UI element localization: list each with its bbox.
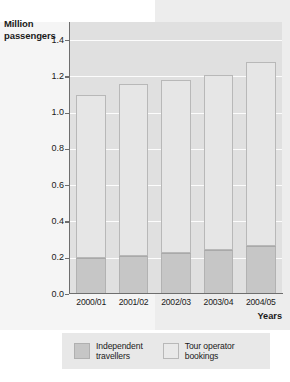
y-axis-tick-mark [65,294,69,295]
y-axis-tick-mark [65,258,69,259]
bar-group [119,22,149,294]
stacked-bar-chart: Million passengers 0.00.20.40.60.81.01.2… [0,0,290,382]
legend-swatch-independent [74,343,90,359]
x-axis-tick-label: 2000/01 [69,297,113,307]
y-axis-tick-mark [65,185,69,186]
x-axis-tick-label: 2001/02 [112,297,156,307]
y-axis-tick-label: 1.2 [26,71,64,81]
x-axis-tick-label: 2002/03 [154,297,198,307]
bar-segment-tour-operator [204,75,234,250]
bar-segment-independent [76,258,106,294]
y-axis-tick-mark [65,113,69,114]
bar-segment-tour-operator [119,84,149,256]
y-axis-tick-label: 0.2 [26,252,64,262]
y-axis-title-line1: Million [4,18,66,30]
bar-segment-tour-operator [76,95,106,258]
bar-segment-tour-operator [246,62,276,246]
legend-label-independent-line2: travellers [96,351,143,362]
y-axis-tick-mark [65,40,69,41]
bar-group [246,22,276,294]
bar-group [161,22,191,294]
plot-area [70,22,282,294]
y-axis-tick-mark [65,221,69,222]
plot-inner [70,22,282,294]
x-axis-title: Years [257,311,282,321]
bar-segment-independent [161,253,191,294]
chart-legend: Independent travellers Tour operator boo… [62,333,270,369]
y-axis-tick-label: 1.0 [26,107,64,117]
bar-segment-tour-operator [161,80,191,253]
y-axis-tick-label: 0.4 [26,216,64,226]
bar-segment-independent [246,246,276,294]
x-axis-tick-label: 2004/05 [239,297,283,307]
x-axis-tick-label: 2003/04 [196,297,240,307]
legend-item-independent: Independent travellers [74,341,143,362]
legend-label-tour-operator-line2: bookings [185,351,235,362]
bar-segment-independent [119,256,149,294]
y-axis-line [69,22,70,294]
y-axis-tick-label: 0.8 [26,143,64,153]
legend-swatch-tour-operator [163,343,179,359]
legend-label-tour-operator-line1: Tour operator [185,341,235,352]
x-axis-line [69,293,283,294]
bar-group [204,22,234,294]
bar-group [76,22,106,294]
y-axis-tick-mark [65,76,69,77]
y-axis-tick-label: 0.6 [26,180,64,190]
y-axis-tick-label: 1.4 [26,35,64,45]
legend-label-tour-operator: Tour operator bookings [185,341,235,362]
legend-item-tour-operator: Tour operator bookings [163,341,235,362]
y-axis-tick-mark [65,149,69,150]
legend-label-independent-line1: Independent [96,341,143,352]
legend-label-independent: Independent travellers [96,341,143,362]
y-axis-tick-label: 0.0 [26,289,64,299]
bar-segment-independent [204,250,234,294]
